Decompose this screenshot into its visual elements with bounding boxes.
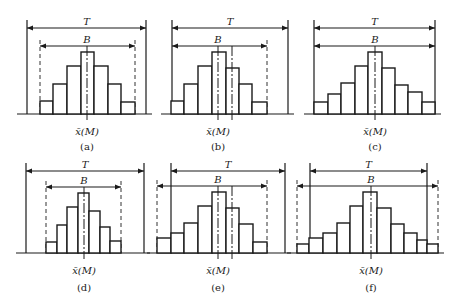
histogram-bar — [355, 66, 368, 114]
spread-label: B — [213, 34, 221, 45]
histogram-bar — [395, 85, 408, 114]
histogram-bar — [314, 102, 328, 114]
histogram-figure: TBx̄(M)(a)TBx̄(M)(b)TBx̄(M)(c)TBx̄(M)(d)… — [0, 0, 457, 305]
histogram-bar — [350, 206, 363, 253]
histogram-bar — [46, 242, 57, 253]
histogram-bar — [404, 233, 417, 253]
histogram-bar — [94, 66, 108, 114]
histogram-panel-d: TBx̄(M)(d) — [16, 159, 150, 293]
panel-caption: (c) — [368, 141, 382, 152]
spread-label: B — [213, 174, 221, 185]
histogram-panel-c: TBx̄(M)(c) — [304, 16, 441, 152]
histogram-bar — [171, 101, 184, 114]
mean-label: x̄(M) — [206, 265, 230, 276]
histogram-bar — [408, 92, 422, 114]
histogram-bar — [341, 83, 355, 114]
panel-caption: (f) — [365, 282, 377, 293]
histogram-bar — [198, 66, 212, 114]
mean-label: x̄(M) — [359, 265, 383, 276]
histogram-bar — [253, 242, 267, 253]
histogram-bar — [239, 84, 252, 114]
histogram-bar — [40, 101, 53, 114]
panel-caption: (d) — [77, 282, 91, 293]
mean-label: x̄(M) — [72, 265, 96, 276]
histogram-bar — [252, 102, 267, 114]
tolerance-label: T — [371, 16, 379, 27]
tolerance-label: T — [225, 159, 233, 170]
spread-label: B — [366, 174, 374, 185]
histogram-bar — [198, 206, 212, 253]
histogram-bar — [297, 244, 309, 253]
tolerance-label: T — [82, 159, 90, 170]
histogram-bar — [171, 233, 184, 253]
histogram-bar — [309, 238, 323, 253]
mean-label: x̄(M) — [363, 126, 387, 137]
histogram-bar — [67, 207, 78, 253]
histogram-bar — [363, 192, 377, 253]
histogram-bar — [337, 223, 350, 253]
histogram-panel-a: TBx̄(M)(a) — [17, 16, 152, 152]
panel-caption: (e) — [211, 282, 225, 293]
histogram-bar — [391, 224, 404, 253]
spread-label: B — [82, 34, 90, 45]
histogram-bar — [121, 102, 135, 114]
spread-label: B — [79, 175, 87, 186]
histogram-panel-e: TBx̄(M)(e) — [147, 159, 291, 293]
histogram-bar — [184, 223, 198, 253]
histogram-bar — [110, 241, 121, 253]
panel-caption: (b) — [211, 141, 225, 152]
histogram-bar — [89, 211, 100, 253]
tolerance-label: T — [227, 16, 235, 27]
histogram-panel-b: TBx̄(M)(b) — [161, 16, 294, 152]
tolerance-label: T — [365, 159, 373, 170]
panel-caption: (a) — [80, 141, 94, 152]
histogram-bar — [328, 94, 341, 114]
histogram-bar — [108, 84, 121, 114]
mean-label: x̄(M) — [206, 126, 230, 137]
histogram-bar — [422, 102, 435, 114]
histogram-bar — [427, 244, 438, 253]
histogram-bar — [184, 84, 198, 114]
histogram-bar — [212, 192, 226, 253]
histogram-panel-f: TBx̄(M)(f) — [287, 159, 444, 293]
histogram-bar — [377, 208, 391, 253]
mean-label: x̄(M) — [75, 126, 99, 137]
histogram-bar — [67, 66, 81, 114]
histogram-bar — [100, 227, 110, 253]
spread-label: B — [370, 34, 378, 45]
histogram-bar — [53, 84, 67, 114]
histogram-bar — [417, 240, 427, 253]
tolerance-label: T — [83, 16, 91, 27]
histogram-bar — [323, 233, 337, 253]
histogram-bar — [239, 224, 253, 253]
histogram-bar — [157, 238, 171, 253]
histogram-bar — [57, 225, 67, 253]
histogram-bar — [212, 52, 226, 114]
histogram-bar — [382, 68, 395, 114]
